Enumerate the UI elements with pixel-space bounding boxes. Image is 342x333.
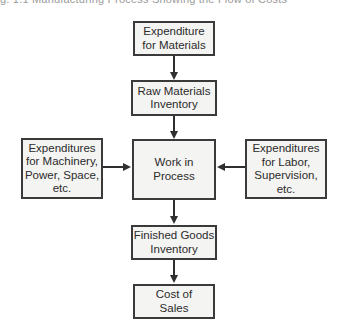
figure-caption: g. 1.1 Manufacturing Process Showing the…	[0, 0, 342, 5]
edge-materials-to-raw	[173, 56, 175, 73]
node-label: Raw Materials Inventory	[138, 85, 211, 112]
edge-finished-to-cost	[173, 260, 175, 276]
node-work-in-process: Work in Process	[132, 139, 216, 200]
arrow-down-icon	[170, 72, 178, 80]
edge-machinery-to-wip	[103, 166, 124, 168]
node-finished-goods-inventory: Finished Goods Inventory	[131, 225, 217, 260]
node-cost-of-sales: Cost of Sales	[133, 284, 215, 319]
node-label: Expenditures for Machinery, Power, Space…	[25, 142, 99, 196]
node-raw-materials-inventory: Raw Materials Inventory	[131, 80, 217, 116]
node-label: Expenditures for Labor, Supervision, etc…	[252, 142, 319, 196]
arrow-down-icon	[170, 131, 178, 139]
node-expenditure-materials: Expenditure for Materials	[133, 21, 215, 56]
node-label: Finished Goods Inventory	[134, 229, 215, 256]
node-label: Expenditure for Materials	[142, 25, 205, 52]
arrow-down-icon	[170, 216, 178, 224]
node-label: Work in Process	[153, 156, 195, 183]
node-expenditures-labor: Expenditures for Labor, Supervision, etc…	[245, 139, 327, 199]
node-label: Cost of Sales	[156, 288, 192, 315]
edge-labor-to-wip	[224, 166, 245, 168]
arrow-right-icon	[123, 163, 131, 171]
arrow-down-icon	[170, 275, 178, 283]
node-expenditures-machinery: Expenditures for Machinery, Power, Space…	[21, 138, 103, 199]
edge-raw-to-wip	[173, 116, 175, 132]
edge-wip-to-finished	[173, 200, 175, 217]
